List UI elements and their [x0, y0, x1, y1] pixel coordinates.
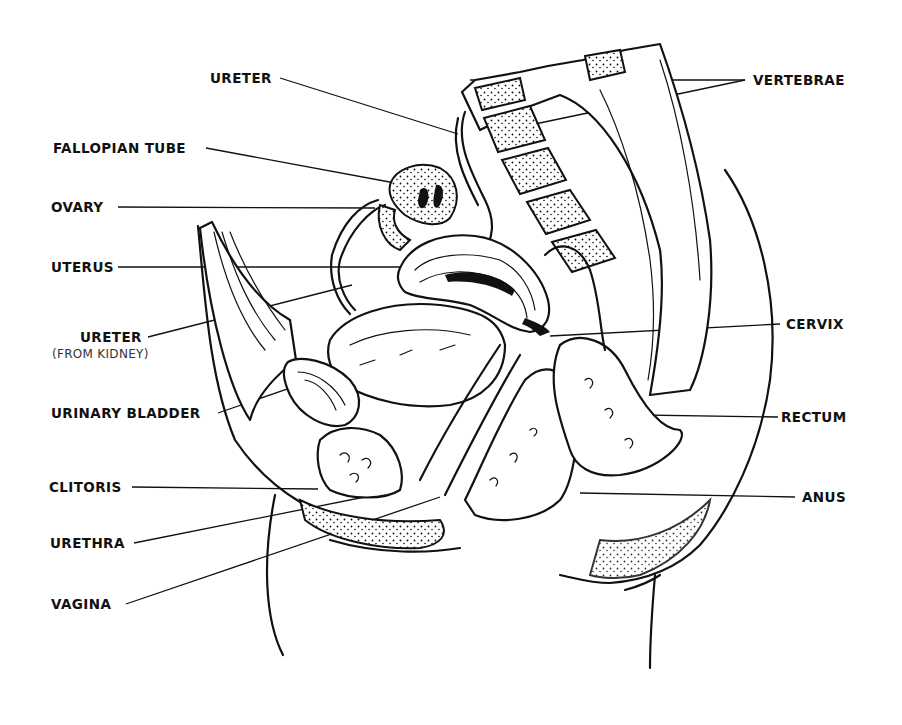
label-ureter-from-kidney-subtext: (FROM KIDNEY)	[52, 347, 149, 361]
label-rectum: RECTUM	[781, 409, 847, 425]
anatomy-illustration	[0, 0, 902, 725]
skin-stipple	[590, 500, 710, 578]
ureter-posterior	[456, 112, 492, 255]
label-cervix: CERVIX	[786, 316, 844, 332]
label-ureter-from-kidney: URETER	[80, 329, 142, 345]
urinary-bladder	[284, 304, 505, 426]
label-clitoris: CLITORIS	[49, 479, 122, 495]
pubic-tissue	[300, 428, 444, 548]
fallopian-tube	[331, 200, 410, 314]
label-vagina: VAGINA	[51, 596, 111, 612]
label-anus: ANUS	[802, 489, 846, 505]
label-fallopian-tube: FALLOPIAN TUBE	[53, 140, 186, 156]
label-vertebrae: VERTEBRAE	[753, 72, 845, 88]
label-ovary: OVARY	[51, 199, 104, 215]
label-uterus: UTERUS	[51, 259, 114, 275]
label-urinary-bladder: URINARY BLADDER	[51, 405, 201, 421]
label-ureter: URETER	[210, 70, 272, 86]
label-urethra: URETHRA	[50, 535, 125, 551]
ovary	[390, 165, 457, 224]
